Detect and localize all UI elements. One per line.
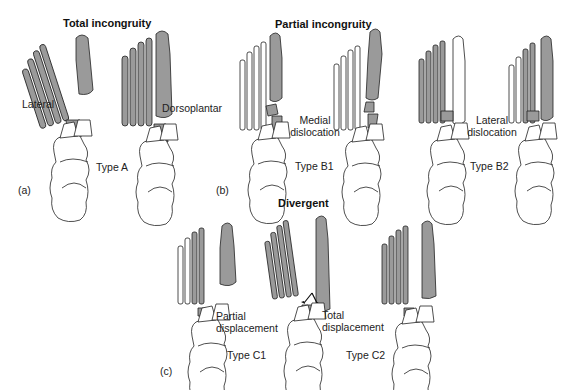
- panel-b-title: Partial incongruity: [275, 18, 372, 30]
- type-b1-label: Type B1: [295, 160, 334, 172]
- lateral-dislocation-label: Lateral dislocation: [464, 114, 520, 138]
- panel-c-title: Divergent: [278, 197, 329, 209]
- lateral-label: Lateral: [22, 98, 54, 110]
- foot-lateral-illustration: [30, 28, 110, 228]
- foot-c-total-illustration: [268, 213, 348, 383]
- dorsoplantar-label: Dorsoplantar: [162, 102, 222, 114]
- lateral-dislocation-line2: dislocation: [464, 126, 520, 138]
- lateral-dislocation-line1: Lateral: [464, 114, 520, 126]
- foot-c2-illustration: [378, 220, 458, 390]
- type-c1-label: Type C1: [227, 349, 266, 361]
- medial-dislocation-line2: dislocation: [287, 126, 343, 138]
- panel-c-marker: (c): [160, 365, 172, 377]
- total-displacement-label: Total displacement: [322, 309, 384, 333]
- foot-c1-illustration: [174, 218, 254, 388]
- medial-dislocation-line1: Medial: [287, 114, 343, 126]
- total-displacement-line1: Total: [322, 309, 384, 321]
- panel-a-marker: (a): [18, 184, 31, 196]
- total-displacement-line2: displacement: [322, 321, 384, 333]
- foot-dorsoplantar-illustration: [118, 28, 198, 228]
- type-a-label: Type A: [96, 161, 128, 173]
- type-b2-label: Type B2: [470, 160, 509, 172]
- panel-b-marker: (b): [216, 184, 229, 196]
- medial-dislocation-label: Medial dislocation: [287, 114, 343, 138]
